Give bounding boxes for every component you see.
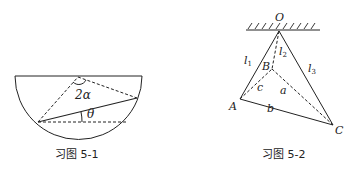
length-l1-label: l1: [244, 54, 252, 68]
side-b: [240, 99, 333, 125]
side-c: [240, 69, 272, 99]
dashed-ray-left: [38, 77, 78, 122]
caption-5-2: 习图 5-2: [262, 148, 305, 161]
figure-5-2: [240, 23, 333, 125]
caption-5-1: 习图 5-1: [55, 148, 98, 161]
side-c-label: c: [257, 81, 263, 94]
point-A-label: A: [228, 100, 237, 113]
base-angle-arc: [81, 112, 82, 122]
angle-theta-label: θ: [87, 107, 95, 121]
length-l2-label: l2: [279, 45, 287, 59]
length-l3-label: l3: [308, 62, 316, 76]
string-l3: [279, 31, 333, 125]
figure-5-1: [15, 76, 142, 139]
semicircle-bowl: [15, 76, 142, 139]
side-a-label: a: [280, 84, 287, 97]
point-B-label: B: [261, 60, 270, 73]
angle-2alpha-label: 2α: [74, 88, 91, 102]
point-C-label: C: [335, 124, 344, 137]
point-O-label: O: [275, 11, 284, 24]
diagram-canvas: 2α θ 习图 5-1 O A B C l1 l2 l3 a b c 习图 5-…: [0, 0, 351, 170]
side-b-label: b: [267, 102, 274, 115]
